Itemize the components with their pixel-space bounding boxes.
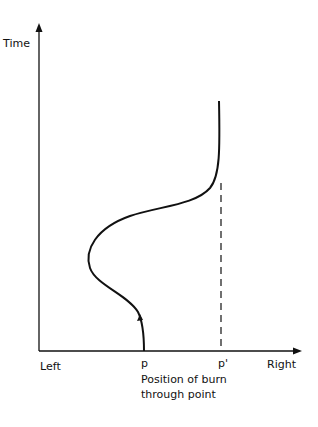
x-tick-left: Left — [40, 360, 61, 373]
x-axis-label-line2: through point — [141, 388, 216, 401]
y-axis-label: Time — [3, 37, 30, 50]
trajectory-curve — [89, 101, 220, 351]
direction-arrow-icon — [137, 314, 143, 321]
x-tick-p: p — [141, 357, 148, 370]
y-axis-arrow-icon — [36, 23, 43, 32]
x-axis-arrow-icon — [293, 348, 302, 355]
x-tick-p-prime: p' — [218, 357, 228, 370]
x-tick-right: Right — [267, 358, 296, 371]
x-axis-label-line1: Position of burn — [141, 373, 227, 386]
